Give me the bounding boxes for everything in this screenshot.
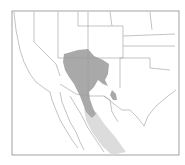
range-map — [0, 0, 185, 165]
